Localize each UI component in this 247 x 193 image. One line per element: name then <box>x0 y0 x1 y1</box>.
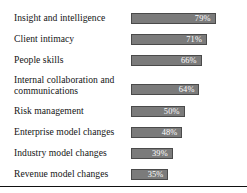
bar: 71% <box>131 34 207 45</box>
chart-row: Internal collaboration and communication… <box>0 71 247 101</box>
category-label-line: Internal collaboration and <box>14 74 114 85</box>
chart-row: Industry model changes 39% <box>0 143 247 164</box>
bar-track: 71% <box>131 34 238 45</box>
category-label-line-2: communications <box>14 85 78 96</box>
category-label: Internal collaboration and communication… <box>14 75 128 96</box>
bar-track: 66% <box>131 55 238 66</box>
bar-value-label: 79% <box>195 14 215 23</box>
bar: 64% <box>131 84 199 95</box>
category-label: Enterprise model changes <box>14 127 128 138</box>
bar-value-label: 48% <box>162 128 182 137</box>
chart-row: Revenue model changes 35% <box>0 164 247 185</box>
bar-track: 35% <box>131 169 238 180</box>
bar: 48% <box>131 127 182 138</box>
chart-row: Insight and intelligence 79% <box>0 8 247 29</box>
category-label-line: Insight and intelligence <box>14 12 105 23</box>
bar-value-label: 64% <box>179 85 199 94</box>
category-label-line: Industry model changes <box>14 147 107 158</box>
bar: 35% <box>131 169 168 180</box>
category-label: Industry model changes <box>14 148 128 159</box>
bar-chart-rows: Insight and intelligence 79% Client inti… <box>0 8 247 185</box>
category-label-line: Risk management <box>14 105 84 116</box>
bar-track: 50% <box>131 106 238 117</box>
category-label-line: Enterprise model changes <box>14 126 114 137</box>
bar-value-label: 71% <box>186 35 206 44</box>
bar-track: 64% <box>131 84 238 95</box>
chart-row: Risk management 50% <box>0 101 247 122</box>
category-label: Risk management <box>14 106 128 117</box>
category-label-line: People skills <box>14 54 63 65</box>
category-label-line: Revenue model changes <box>14 168 108 179</box>
category-label: Client intimacy <box>14 34 128 45</box>
bar-chart-figure: Insight and intelligence 79% Client inti… <box>0 0 247 193</box>
bar-track: 48% <box>131 127 238 138</box>
bar-value-label: 50% <box>164 107 184 116</box>
bar-track: 79% <box>131 13 238 24</box>
bar-value-label: 66% <box>181 56 201 65</box>
category-label-line: Client intimacy <box>14 33 74 44</box>
category-label: Revenue model changes <box>14 169 128 180</box>
chart-row: Client intimacy 71% <box>0 29 247 50</box>
bar: 79% <box>131 13 216 24</box>
bottom-divider <box>0 186 247 187</box>
category-label: People skills <box>14 55 128 66</box>
bar: 66% <box>131 55 202 66</box>
bar-value-label: 35% <box>148 170 168 179</box>
bar: 39% <box>131 148 173 159</box>
bar: 50% <box>131 106 185 117</box>
bar-value-label: 39% <box>152 149 172 158</box>
bar-track: 39% <box>131 148 238 159</box>
chart-row: People skills 66% <box>0 50 247 71</box>
chart-row: Enterprise model changes 48% <box>0 122 247 143</box>
category-label: Insight and intelligence <box>14 13 128 24</box>
